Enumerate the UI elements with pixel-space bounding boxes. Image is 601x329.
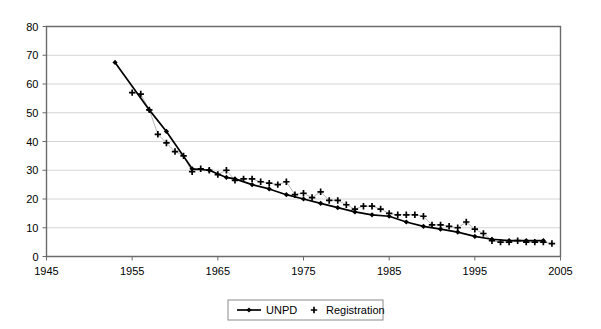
x-tick-label-1995: 1995 xyxy=(463,265,487,277)
chart-legend[interactable]: UNPDRegistration xyxy=(228,300,385,320)
x-tick-label-1985: 1985 xyxy=(377,265,401,277)
y-tick-label-60: 60 xyxy=(26,78,38,90)
y-tick-label-20: 20 xyxy=(26,193,38,205)
x-tick-label-1945: 1945 xyxy=(34,265,58,277)
chart-background xyxy=(0,0,601,329)
y-tick-label-80: 80 xyxy=(26,21,38,33)
y-tick-label-50: 50 xyxy=(26,107,38,119)
legend-label-unpd: UNPD xyxy=(266,304,297,316)
x-tick-label-1955: 1955 xyxy=(120,265,144,277)
legend-label-registration: Registration xyxy=(326,304,385,316)
y-axis-tick-labels: 01020304050607080 xyxy=(26,21,38,263)
y-tick-label-40: 40 xyxy=(26,136,38,148)
x-tick-label-1965: 1965 xyxy=(206,265,230,277)
y-tick-label-70: 70 xyxy=(26,49,38,61)
chart-container: 1945195519651975198519952005 01020304050… xyxy=(0,0,601,329)
y-tick-label-0: 0 xyxy=(32,251,38,263)
x-tick-label-2005: 2005 xyxy=(548,265,572,277)
y-tick-label-30: 30 xyxy=(26,164,38,176)
x-tick-label-1975: 1975 xyxy=(291,265,315,277)
line-chart: 1945195519651975198519952005 01020304050… xyxy=(0,0,601,329)
y-tick-label-10: 10 xyxy=(26,222,38,234)
